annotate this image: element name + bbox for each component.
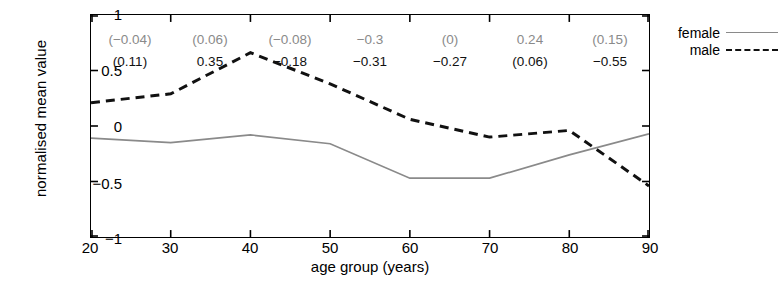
- series-line-male: [91, 53, 649, 186]
- legend-label-male: male: [690, 42, 720, 58]
- legend-label-female: female: [678, 25, 720, 41]
- legend-item-female: female: [648, 24, 778, 41]
- legend-swatch-dashed-line: [726, 49, 778, 51]
- x-tick-label: 40: [230, 240, 270, 255]
- x-tick-label: 20: [70, 240, 110, 255]
- legend: female male: [648, 24, 778, 58]
- series-line-female: [91, 134, 649, 178]
- x-tick-label: 50: [310, 240, 350, 255]
- chart-figure: normalised mean value age group (years) …: [0, 0, 778, 292]
- plot-area: [90, 14, 650, 238]
- axis-ticks: [91, 15, 649, 237]
- x-tick-label: 30: [150, 240, 190, 255]
- legend-swatch-solid-line: [726, 32, 778, 33]
- x-tick-label: 80: [550, 240, 590, 255]
- legend-item-male: male: [648, 41, 778, 58]
- x-tick-label: 60: [390, 240, 430, 255]
- plot-svg: [91, 15, 649, 237]
- y-axis-label: normalised mean value: [32, 9, 49, 229]
- x-axis-label: age group (years): [90, 258, 650, 275]
- x-tick-label: 90: [630, 240, 670, 255]
- x-tick-label: 70: [470, 240, 510, 255]
